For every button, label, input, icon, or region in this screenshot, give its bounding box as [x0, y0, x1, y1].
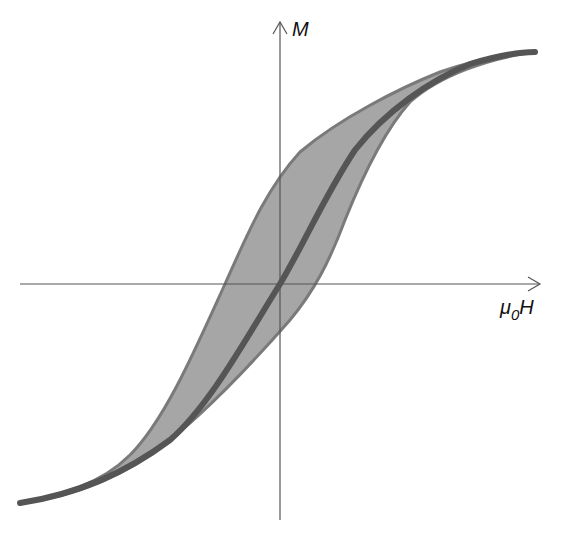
x-axis-label: μ0H — [499, 296, 534, 323]
hysteresis-diagram: M μ0H — [0, 0, 570, 540]
hysteresis-loop-area — [20, 52, 535, 503]
y-axis-label: M — [292, 18, 309, 40]
x-axis-label-h: H — [519, 296, 534, 318]
x-axis-label-mu: μ — [499, 296, 511, 318]
